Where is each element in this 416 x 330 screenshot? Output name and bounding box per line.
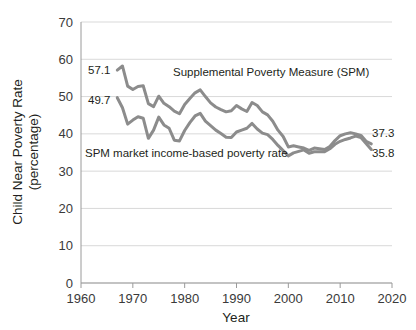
x-tick-label-2020: 2020 — [378, 291, 407, 306]
start-label-market: 49.7 — [88, 94, 110, 106]
market-series-label: SPM market income-based poverty rate — [85, 147, 288, 159]
x-tick-label-2000: 2000 — [274, 291, 303, 306]
y-tick-label-50: 50 — [59, 89, 73, 104]
start-label-spm: 57.1 — [88, 64, 110, 76]
x-tick-label-1990: 1990 — [222, 291, 251, 306]
y-tick-label-60: 60 — [59, 52, 73, 67]
y-tick-label-20: 20 — [59, 201, 73, 216]
y-tick-label-10: 10 — [59, 238, 73, 253]
x-tick-label-1980: 1980 — [170, 291, 199, 306]
y-tick-label-30: 30 — [59, 164, 73, 179]
y-axis-title-line2: (percentage) — [26, 114, 41, 191]
y-tick-label-0: 0 — [66, 276, 73, 291]
x-tick-label-2010: 2010 — [326, 291, 355, 306]
end-label-spm: 37.3 — [372, 127, 394, 139]
end-label-market: 35.8 — [372, 147, 394, 159]
x-axis-title: Year — [222, 310, 250, 325]
y-tick-label-70: 70 — [59, 15, 73, 30]
x-tick-label-1970: 1970 — [118, 291, 147, 306]
y-axis-title-line1: Child Near Poverty Rate — [10, 79, 25, 225]
x-tick-label-1960: 1960 — [67, 291, 96, 306]
chart-container: 010203040506070 196019701980199020002010… — [0, 0, 416, 330]
near-poverty-rate-line-chart: 010203040506070 196019701980199020002010… — [0, 0, 416, 330]
spm-series-label: Supplemental Poverty Measure (SPM) — [173, 66, 369, 78]
y-tick-label-40: 40 — [59, 126, 73, 141]
